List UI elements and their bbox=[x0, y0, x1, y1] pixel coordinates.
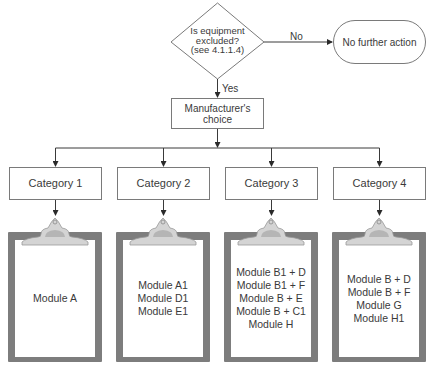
no-label: No bbox=[290, 31, 303, 42]
module-item: Module B1 + F bbox=[237, 279, 306, 292]
category-label: Category 3 bbox=[245, 178, 299, 189]
module-item: Module A1 bbox=[138, 279, 188, 292]
module-item: Module E1 bbox=[138, 305, 188, 318]
clipboard-paper: Module A bbox=[15, 240, 95, 357]
category-label: Category 4 bbox=[353, 178, 407, 189]
clipboard-paper: Module B + D Module B + F Module G Modul… bbox=[339, 240, 419, 357]
module-item: Module G bbox=[356, 299, 402, 312]
module-item: Module A bbox=[33, 292, 77, 305]
clipboard-category-2: Module A1 Module D1 Module E1 bbox=[116, 232, 210, 362]
clipboard-paper: Module B1 + D Module B1 + F Module B + E… bbox=[231, 240, 311, 357]
node-line: choice bbox=[203, 114, 232, 125]
node-line: Manufacturer's bbox=[185, 103, 251, 114]
clipboard-clip-icon bbox=[8, 216, 102, 246]
module-item: Module B + F bbox=[348, 286, 411, 299]
module-item: Module B1 + D bbox=[236, 266, 306, 279]
category-1-node: Category 1 bbox=[9, 167, 102, 200]
module-item: Module B + C1 bbox=[236, 305, 306, 318]
manufacturers-choice-node: Manufacturer's choice bbox=[171, 98, 264, 129]
category-4-node: Category 4 bbox=[333, 167, 426, 200]
terminal-label: No further action bbox=[343, 37, 417, 48]
category-label: Category 2 bbox=[137, 178, 191, 189]
clipboard-category-1: Module A bbox=[8, 232, 102, 362]
clipboard-category-4: Module B + D Module B + F Module G Modul… bbox=[332, 232, 426, 362]
module-item: Module B + E bbox=[239, 292, 302, 305]
no-further-action-node: No further action bbox=[333, 20, 426, 64]
clipboard-clip-icon bbox=[116, 216, 210, 246]
decision-text: Is equipment excluded? (see 4.1.1.4) bbox=[171, 26, 264, 55]
clipboard-paper: Module A1 Module D1 Module E1 bbox=[123, 240, 203, 357]
category-2-node: Category 2 bbox=[117, 167, 210, 200]
clipboard-category-3: Module B1 + D Module B1 + F Module B + E… bbox=[224, 232, 318, 362]
module-item: Module H1 bbox=[354, 312, 405, 325]
category-label: Category 1 bbox=[29, 178, 83, 189]
decision-line: (see 4.1.1.4) bbox=[171, 45, 264, 55]
category-3-node: Category 3 bbox=[225, 167, 318, 200]
module-item: Module B + D bbox=[347, 273, 411, 286]
yes-label: Yes bbox=[222, 83, 238, 94]
module-item: Module H bbox=[249, 318, 294, 331]
clipboard-clip-icon bbox=[224, 216, 318, 246]
clipboard-clip-icon bbox=[332, 216, 426, 246]
module-item: Module D1 bbox=[138, 292, 189, 305]
